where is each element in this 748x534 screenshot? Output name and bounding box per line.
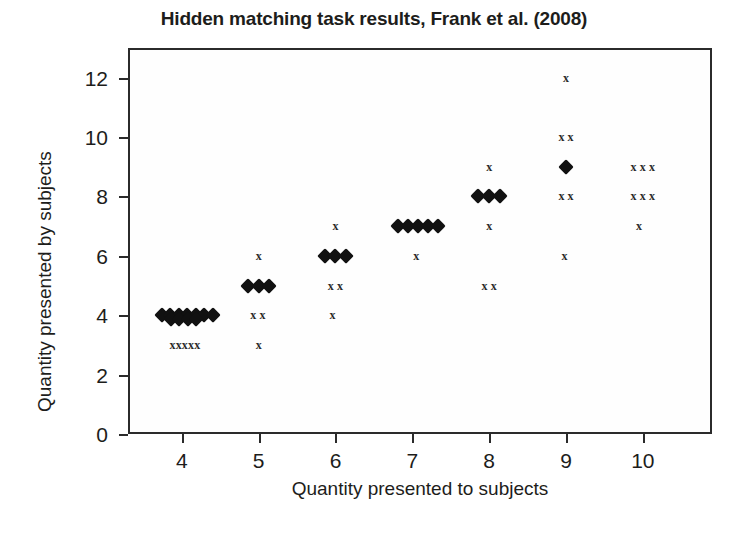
data-point-cross: x: [259, 309, 265, 321]
data-point-cross: x: [649, 161, 655, 173]
data-point-cross: x: [170, 339, 176, 351]
plot-area: xxxxxxxxxxxxxxxxxxxxxxxxxxxxxxx: [128, 48, 712, 434]
y-axis-tick: [119, 137, 128, 139]
y-axis-tick-label: 8: [62, 186, 108, 207]
x-axis-tick-label: 4: [154, 450, 210, 471]
data-point-cross: x: [482, 280, 488, 292]
data-point-cross: x: [328, 280, 334, 292]
data-point-cross: x: [250, 309, 256, 321]
x-axis-title: Quantity presented to subjects: [128, 478, 712, 500]
y-axis-tick-label: 12: [62, 68, 108, 89]
y-axis-tick: [119, 315, 128, 317]
chart-figure: Hidden matching task results, Frank et a…: [0, 0, 748, 534]
y-axis-tick: [119, 434, 128, 436]
data-point-cross: x: [649, 190, 655, 202]
x-axis-tick-label: 6: [307, 450, 363, 471]
y-axis-tick: [119, 256, 128, 258]
chart-title: Hidden matching task results, Frank et a…: [0, 8, 748, 30]
data-point-cross: x: [640, 161, 646, 173]
data-point-cross: x: [188, 339, 194, 351]
data-point-cross: x: [194, 339, 200, 351]
x-axis-tick: [259, 434, 261, 443]
y-axis-tick-label: 4: [62, 305, 108, 326]
y-axis-tick-label: 0: [62, 424, 108, 445]
x-axis-tick: [412, 434, 414, 443]
x-axis-tick: [489, 434, 491, 443]
x-axis-tick-label: 9: [538, 450, 594, 471]
data-point-cross: x: [176, 339, 182, 351]
data-point-diamond: [262, 278, 278, 294]
data-point-cross: x: [413, 250, 419, 262]
data-point-cross: x: [640, 190, 646, 202]
data-point-cross: x: [568, 190, 574, 202]
x-axis-tick-label: 8: [461, 450, 517, 471]
x-axis-tick: [335, 434, 337, 443]
data-point-diamond: [492, 189, 508, 205]
y-axis-tick-label: 6: [62, 246, 108, 267]
x-axis-tick: [643, 434, 645, 443]
data-point-cross: x: [491, 280, 497, 292]
data-point-cross: x: [256, 250, 262, 262]
data-point-cross: x: [558, 131, 564, 143]
data-point-cross: x: [329, 309, 335, 321]
data-point-cross: x: [486, 220, 492, 232]
data-point-cross: x: [563, 72, 569, 84]
y-axis-tick-label: 2: [62, 365, 108, 386]
y-axis-tick: [119, 375, 128, 377]
y-axis-tick-label: 10: [62, 127, 108, 148]
data-point-diamond: [338, 248, 354, 264]
data-point-cross: x: [558, 190, 564, 202]
x-axis-tick-label: 10: [615, 450, 671, 471]
data-point-diamond: [558, 159, 574, 175]
x-axis-tick: [182, 434, 184, 443]
data-point-cross: x: [182, 339, 188, 351]
y-axis-tick: [119, 196, 128, 198]
y-axis-title: Quantity presented by subjects: [34, 151, 56, 412]
data-point-diamond: [431, 218, 447, 234]
x-axis-tick: [566, 434, 568, 443]
data-point-cross: x: [631, 190, 637, 202]
data-point-cross: x: [332, 220, 338, 232]
x-axis-tick-label: 7: [384, 450, 440, 471]
data-point-cross: x: [568, 131, 574, 143]
data-point-cross: x: [486, 161, 492, 173]
data-point-cross: x: [337, 280, 343, 292]
data-point-cross: x: [631, 161, 637, 173]
data-point-cross: x: [256, 339, 262, 351]
x-axis-tick-label: 5: [231, 450, 287, 471]
y-axis-tick: [119, 78, 128, 80]
data-point-cross: x: [561, 250, 567, 262]
data-point-cross: x: [636, 220, 642, 232]
